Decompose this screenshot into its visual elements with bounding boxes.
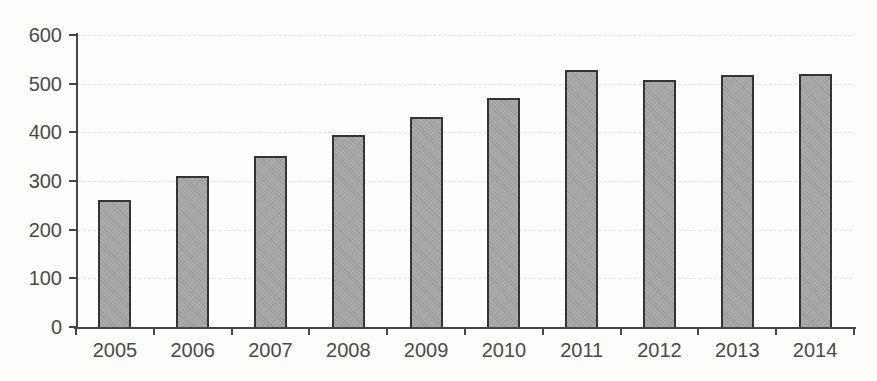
bar-2008: [332, 135, 365, 327]
y-axis-label-600: 600: [10, 25, 62, 45]
y-axis-label-400: 400: [10, 122, 62, 142]
bar-2012: [643, 80, 676, 327]
y-axis-tick-300: [69, 180, 76, 182]
bar-chart-figure: 0100200300400500600200520062007200820092…: [0, 0, 877, 381]
x-axis-label-2008: 2008: [313, 339, 383, 361]
x-axis-label-2013: 2013: [702, 339, 772, 361]
gridline-600: [78, 35, 852, 36]
x-axis-label-2009: 2009: [391, 339, 461, 361]
bar-2011: [565, 70, 598, 327]
y-axis-label-300: 300: [10, 171, 62, 191]
bar-2009: [410, 117, 443, 327]
y-axis-label-0: 0: [10, 317, 62, 337]
bar-2014: [799, 74, 832, 327]
y-axis-tick-400: [69, 131, 76, 133]
x-axis-label-2007: 2007: [236, 339, 306, 361]
y-axis-tick-600: [69, 34, 76, 36]
x-axis-label-2014: 2014: [780, 339, 850, 361]
y-axis-label-500: 500: [10, 74, 62, 94]
x-axis-label-2011: 2011: [547, 339, 617, 361]
x-axis-label-2010: 2010: [469, 339, 539, 361]
y-axis-line: [76, 33, 78, 327]
bar-2007: [254, 156, 287, 327]
y-axis-tick-500: [69, 83, 76, 85]
bar-2005: [98, 200, 131, 327]
x-axis-line: [74, 327, 856, 329]
y-axis-label-200: 200: [10, 220, 62, 240]
x-axis-label-2005: 2005: [80, 339, 150, 361]
bar-2006: [176, 176, 209, 327]
bar-2010: [487, 98, 520, 327]
x-axis-label-2006: 2006: [158, 339, 228, 361]
y-axis-tick-200: [69, 229, 76, 231]
x-axis-label-2012: 2012: [625, 339, 695, 361]
y-axis-label-100: 100: [10, 268, 62, 288]
y-axis-tick-100: [69, 277, 76, 279]
bar-2013: [721, 75, 754, 327]
plot-area: 0100200300400500600200520062007200820092…: [0, 0, 877, 381]
